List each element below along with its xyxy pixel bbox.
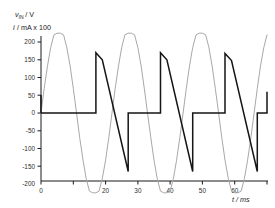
y-tick-label: -50 bbox=[26, 127, 36, 134]
y-axis-label-voltage-unit: / V bbox=[25, 10, 34, 19]
x-axis-label: t / ms bbox=[232, 195, 250, 204]
y-tick-label: 200 bbox=[24, 38, 35, 45]
x-tick-label: 50 bbox=[199, 187, 207, 194]
y-tick-label: 0 bbox=[31, 109, 35, 116]
y-axis-label-voltage-subscript: IN bbox=[19, 14, 24, 20]
x-tick-label: 20 bbox=[102, 187, 110, 194]
chart-figure: vIN/ V i/ mA x 100 200 150 100 50 0 -50 … bbox=[0, 0, 275, 208]
y-tick-label: 50 bbox=[28, 92, 36, 99]
y-tick-label: -100 bbox=[22, 145, 35, 152]
y-axis-label-current-unit: / mA x 100 bbox=[17, 23, 51, 32]
y-tick-label: 100 bbox=[24, 74, 35, 81]
x-tick-label: 30 bbox=[134, 187, 142, 194]
x-tick-label: 0 bbox=[39, 187, 43, 194]
y-tick-label: -200 bbox=[22, 180, 35, 187]
y-axis-label-voltage: vIN/ V bbox=[15, 10, 34, 20]
y-tick-label: 150 bbox=[24, 56, 35, 63]
y-tick-label: -150 bbox=[22, 163, 35, 170]
y-axis-label-current: i/ mA x 100 bbox=[13, 23, 51, 32]
